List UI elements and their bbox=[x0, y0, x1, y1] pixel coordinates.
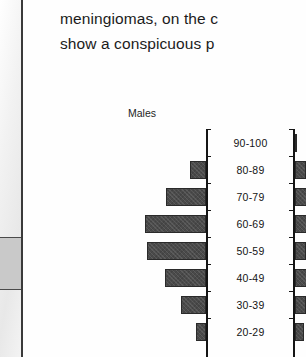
bar-male bbox=[147, 242, 206, 260]
bar-male bbox=[166, 188, 206, 206]
chart-row: 20-29 bbox=[0, 318, 306, 345]
bar-female bbox=[295, 269, 306, 287]
chart-row: 30-39 bbox=[0, 291, 306, 318]
body-text: meningiomas, on the c show a conspicuous… bbox=[60, 6, 306, 56]
bar-female bbox=[295, 296, 306, 314]
bar-male bbox=[165, 269, 206, 287]
bar-female bbox=[295, 161, 306, 179]
population-pyramid-chart: Males 90-10080-8970-7960-6950-5940-4930-… bbox=[0, 95, 306, 357]
body-text-line: meningiomas, on the c bbox=[60, 6, 306, 31]
age-band-label: 40-49 bbox=[208, 264, 293, 291]
age-band-label: 20-29 bbox=[208, 318, 293, 345]
body-text-line: show a conspicuous p bbox=[60, 31, 306, 56]
age-band-label: 90-100 bbox=[208, 129, 293, 156]
bar-female bbox=[295, 134, 297, 152]
age-band-label: 50-59 bbox=[208, 237, 293, 264]
chart-row: 80-89 bbox=[0, 156, 306, 183]
bar-male bbox=[145, 215, 206, 233]
chart-row: 90-100 bbox=[0, 129, 306, 156]
document-page: meningiomas, on the c show a conspicuous… bbox=[0, 0, 306, 357]
bar-male bbox=[190, 161, 206, 179]
age-band-label: 70-79 bbox=[208, 183, 293, 210]
chart-row: 40-49 bbox=[0, 264, 306, 291]
chart-row: 50-59 bbox=[0, 237, 306, 264]
bar-female bbox=[295, 215, 306, 233]
bar-male bbox=[196, 323, 206, 341]
chart-title-males: Males bbox=[112, 107, 172, 119]
chart-rows: 90-10080-8970-7960-6950-5940-4930-3920-2… bbox=[0, 129, 306, 345]
bar-male bbox=[181, 296, 206, 314]
age-band-label: 30-39 bbox=[208, 291, 293, 318]
bar-female bbox=[295, 323, 304, 341]
bar-female bbox=[295, 242, 306, 260]
chart-row: 70-79 bbox=[0, 183, 306, 210]
age-band-label: 80-89 bbox=[208, 156, 293, 183]
bar-female bbox=[295, 188, 306, 206]
chart-row: 60-69 bbox=[0, 210, 306, 237]
age-band-label: 60-69 bbox=[208, 210, 293, 237]
